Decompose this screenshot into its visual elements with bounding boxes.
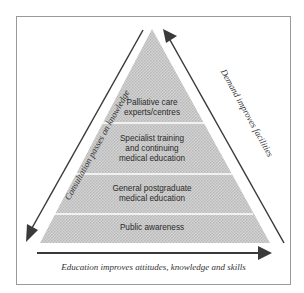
diagram-canvas: Palliative care experts/centres Speciali… bbox=[0, 0, 304, 293]
tier-label-line: medical education bbox=[92, 154, 212, 164]
tier-label-line: and continuing bbox=[92, 144, 212, 154]
tier-public-awareness: Public awareness bbox=[92, 223, 212, 233]
bottom-arrow-head-icon bbox=[258, 246, 272, 260]
tier-label-line: General postgraduate bbox=[92, 184, 212, 194]
tier-label-line: medical education bbox=[92, 194, 212, 204]
tier-specialist-training: Specialist training and continuing medic… bbox=[92, 134, 212, 164]
tier-label-line: Public awareness bbox=[92, 223, 212, 233]
tier-general-postgraduate: General postgraduate medical education bbox=[92, 184, 212, 204]
tier-label-line: Specialist training bbox=[92, 134, 212, 144]
bottom-arrow-label: Education improves attitudes, knowledge … bbox=[16, 262, 291, 272]
